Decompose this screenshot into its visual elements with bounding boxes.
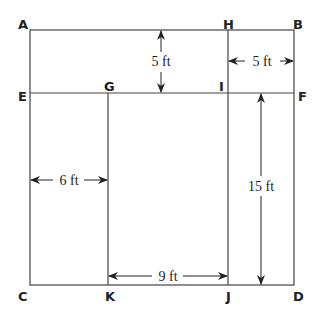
dim-label-5ft-vertical: 5 ft xyxy=(151,54,170,69)
point-label-J: J xyxy=(225,289,231,304)
dim-label-5ft-horizontal: 5 ft xyxy=(252,54,271,69)
point-label-I: I xyxy=(219,79,224,94)
point-label-G: G xyxy=(104,79,115,94)
point-label-K: K xyxy=(105,289,116,304)
dimension-5ft-horizontal: 5 ft xyxy=(229,54,293,69)
dimension-6ft: 6 ft xyxy=(31,173,107,188)
point-label-A: A xyxy=(18,17,28,32)
point-label-D: D xyxy=(293,289,304,304)
point-label-C: C xyxy=(18,289,28,304)
dim-label-6ft: 6 ft xyxy=(59,173,78,188)
dimension-5ft-vertical: 5 ft xyxy=(151,31,170,92)
dim-label-15ft: 15 ft xyxy=(248,179,274,194)
dim-label-9ft: 9 ft xyxy=(158,269,177,284)
point-label-B: B xyxy=(293,17,303,32)
point-label-H: H xyxy=(223,17,234,32)
dimension-15ft: 15 ft xyxy=(248,94,274,284)
point-label-E: E xyxy=(18,89,27,104)
point-label-F: F xyxy=(298,89,307,104)
floor-plan-diagram: 5 ft 5 ft 6 ft 15 ft 9 ft A H B E G I F … xyxy=(0,0,319,318)
dimension-9ft: 9 ft xyxy=(109,269,227,284)
